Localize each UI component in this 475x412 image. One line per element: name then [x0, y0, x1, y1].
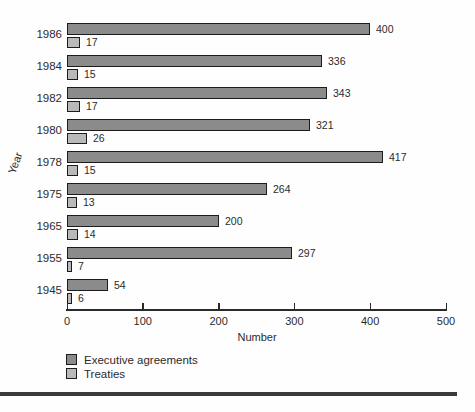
year-label: 1984 [0, 55, 62, 78]
executive-agreements-value: 54 [114, 279, 126, 291]
treaties-bar [67, 133, 87, 144]
x-axis-tick [142, 303, 144, 309]
treaties-value: 13 [83, 197, 95, 208]
executive-agreements-bar [67, 247, 292, 259]
bottom-rule [0, 392, 457, 396]
treaties-bar [67, 229, 78, 240]
treaties-bar [67, 261, 72, 272]
executive-agreements-bar [67, 215, 219, 227]
treaties-value: 17 [86, 37, 98, 48]
year-label: 1975 [0, 183, 62, 206]
x-axis-tick-label: 100 [123, 315, 163, 327]
year-label: 1965 [0, 215, 62, 238]
legend-label: Executive agreements [84, 353, 198, 367]
executive-agreements-value: 400 [376, 23, 394, 35]
treaties-bar [67, 197, 77, 208]
year-label: 1945 [0, 279, 62, 302]
treaties-value: 6 [78, 293, 84, 304]
treaties-bar [67, 165, 78, 176]
executive-agreements-value: 264 [273, 183, 291, 195]
executive-agreements-bar [67, 23, 370, 35]
treaties-swatch [66, 368, 77, 379]
year-label: 1980 [0, 119, 62, 142]
bar-group-1975: 1975 264 13 [0, 183, 475, 206]
executive-agreements-value: 417 [389, 151, 407, 163]
bar-group-1982: 1982 343 17 [0, 87, 475, 110]
x-axis-tick-label: 300 [274, 315, 314, 327]
x-axis-line [66, 309, 447, 311]
treaties-bar [67, 69, 78, 80]
bar-group-1955: 1955 297 7 [0, 247, 475, 270]
bar-chart: Year 1986 400 17 1984 336 15 1982 343 17… [0, 0, 475, 412]
year-label: 1982 [0, 87, 62, 110]
executive-agreements-value: 200 [225, 215, 243, 227]
bar-group-1984: 1984 336 15 [0, 55, 475, 78]
executive-agreements-bar [67, 279, 108, 291]
bar-group-1986: 1986 400 17 [0, 23, 475, 46]
bar-group-1945: 1945 54 6 [0, 279, 475, 302]
treaties-bar [67, 37, 80, 48]
treaties-value: 15 [84, 69, 96, 80]
x-axis-tick [446, 303, 448, 309]
treaties-value: 26 [93, 133, 105, 144]
x-axis-tick [294, 303, 296, 309]
x-axis-tick [67, 303, 69, 309]
year-label: 1978 [0, 151, 62, 174]
year-label: 1955 [0, 247, 62, 270]
x-axis-title: Number [67, 331, 447, 343]
bar-group-1965: 1965 200 14 [0, 215, 475, 238]
executive-agreements-value: 297 [298, 247, 316, 259]
x-axis-tick-label: 200 [199, 315, 239, 327]
executive-agreements-value: 336 [328, 55, 346, 67]
executive-agreements-bar [67, 119, 310, 131]
x-axis-tick [218, 303, 220, 309]
bar-group-1980: 1980 321 26 [0, 119, 475, 142]
executive-agreements-bar [67, 183, 267, 195]
legend-label: Treaties [84, 367, 125, 381]
year-label: 1986 [0, 23, 62, 46]
x-axis-tick [370, 303, 372, 309]
executive-agreements-swatch [66, 354, 77, 365]
executive-agreements-value: 321 [316, 119, 334, 131]
executive-agreements-bar [67, 55, 322, 67]
executive-agreements-value: 343 [333, 87, 351, 99]
treaties-value: 14 [84, 229, 96, 240]
x-axis-tick-label: 500 [426, 315, 466, 327]
treaties-value: 17 [86, 101, 98, 112]
x-axis-tick-label: 0 [47, 315, 87, 327]
x-axis-tick-label: 400 [350, 315, 390, 327]
treaties-bar [67, 101, 80, 112]
bar-group-1978: 1978 417 15 [0, 151, 475, 174]
treaties-value: 7 [78, 261, 84, 272]
executive-agreements-bar [67, 87, 327, 99]
treaties-value: 15 [84, 165, 96, 176]
executive-agreements-bar [67, 151, 383, 163]
